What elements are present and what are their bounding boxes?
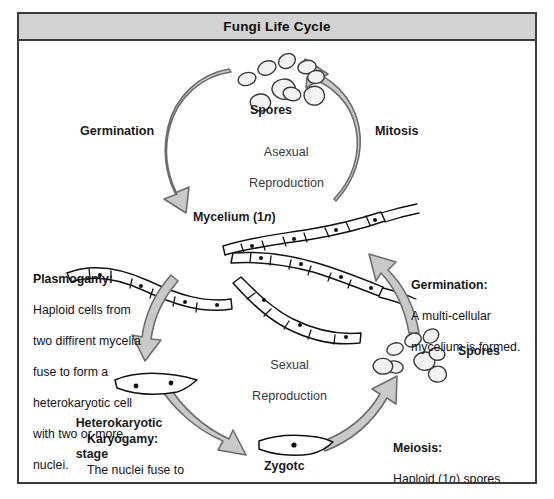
karyogamy-heading: Karyogamy: [87,432,237,447]
germination-body-1: A multi-cellular [411,309,491,323]
asexual-line-2: Reproduction [249,176,324,190]
mycelium-ploidy-n: n [264,210,272,224]
plasmogamy-body-1: Haploid cells from [33,303,131,317]
germination-description: Germination: A multi-cellular mycelium i… [411,263,535,356]
zygote-cell [259,435,333,455]
figure-title-bar: Fungi Life Cycle [19,14,535,41]
mycelium-suffix: ) [272,210,276,224]
sexual-line-1: Sexual [270,358,309,372]
asexual-reproduction-label: Asexual Reproduction [216,129,336,208]
spores-right-label: Spores [458,344,500,360]
sexual-line-2: Reproduction [252,389,327,403]
karyogamy-description: Karyogamy: The nuclei fuse to form a dip… [87,417,237,482]
sexual-reproduction-label: Sexual Reproduction [219,342,339,421]
germination-heading: Germination: [411,278,535,293]
plasmogamy-heading: Plasmogamy: [33,272,173,287]
meiosis-heading: Meiosis: [393,441,535,456]
plasmogamy-body-2: two diffirent mycelia [33,334,141,348]
karyogamy-body-1: The nuclei fuse to [87,463,184,477]
plasmogamy-body-3: fuse to form a [33,365,108,379]
asexual-line-1: Asexual [264,145,309,159]
mycelium-prefix: Mycelium (1 [193,210,264,224]
page-title: Fungi Life Cycle [223,19,330,34]
meiosis-description: Meiosis: Haploid (1n) spores are formed. [393,426,535,482]
spores-cluster-top [237,51,326,112]
mitosis-label: Mitosis [375,124,418,140]
meiosis-body-1-post: ) spores [456,472,500,482]
zygote-label: Zygotc [264,459,305,475]
mycelium-label: Mycelium (1n) [193,210,276,226]
fungi-life-cycle-figure: Fungi Life Cycle .arw{fill:#c9c9c9;strok… [0,0,554,499]
diagram-canvas: .arw{fill:#c9c9c9;stroke:#6d6d6d;stroke-… [19,41,535,482]
meiosis-body-1-pre: Haploid (1 [393,472,449,482]
germination-asexual-label: Germination [80,124,154,140]
spores-top-label: Spores [250,103,292,119]
meiosis-ploidy-n: n [449,472,456,482]
